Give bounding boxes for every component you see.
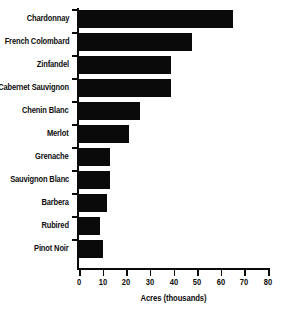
x-axis-tick [174,270,176,276]
x-axis-tick [221,270,223,276]
x-axis-tick-label: 50 [187,277,207,287]
y-axis-tick [72,32,78,34]
x-axis-title: Acres (thousands) [87,293,261,303]
x-axis-tick-label: 60 [211,277,231,287]
x-axis-tick [103,270,105,276]
bar [79,125,129,143]
bar [79,56,171,74]
category-label: French Colombard [4,33,69,51]
x-axis-tick-label: 0 [69,277,89,287]
y-axis-tick [72,147,78,149]
x-axis-tick [126,270,128,276]
x-axis-tick-label: 40 [164,277,184,287]
x-axis-tick [79,270,81,276]
category-label: Chardonnay [26,10,69,28]
x-axis-tick [244,270,246,276]
y-axis-tick [72,193,78,195]
x-axis-tick-label: 20 [116,277,136,287]
y-axis-tick [72,101,78,103]
y-axis-tick [72,124,78,126]
category-label: Chenin Blanc [23,102,69,120]
bar [79,171,110,189]
bar [79,102,140,120]
x-axis-tick-label: 30 [140,277,160,287]
bar [79,194,107,212]
category-label: Cabernet Sauvignon [0,79,69,97]
bar [79,148,110,166]
y-axis-tick [72,9,78,11]
bar-chart: ChardonnayFrench ColombardZinfandelCaber… [0,0,282,320]
y-axis-line [77,8,79,269]
category-label: Merlot [47,125,69,143]
bar [79,79,171,97]
x-axis-tick [150,270,152,276]
category-label: Rubired [42,217,69,235]
y-axis-tick [72,78,78,80]
category-label: Sauvignon Blanc [10,171,69,189]
category-label: Barbera [41,194,69,212]
category-label: Grenache [35,148,69,166]
bar [79,240,103,258]
y-axis-tick [72,55,78,57]
y-axis-tick [72,170,78,172]
category-label-column: ChardonnayFrench ColombardZinfandelCaber… [0,10,74,268]
x-axis-tick [268,270,270,276]
plot-area [79,10,268,268]
category-label: Pinot Noir [34,240,69,258]
x-axis-tick-label: 70 [234,277,254,287]
x-axis-tick [197,270,199,276]
bar [79,217,100,235]
x-axis-tick-label: 10 [93,277,113,287]
category-label: Zinfandel [37,56,69,74]
y-axis-tick [72,216,78,218]
x-axis-tick-label: 80 [258,277,278,287]
bar [79,33,192,51]
y-axis-tick [72,239,78,241]
bar [79,10,233,28]
